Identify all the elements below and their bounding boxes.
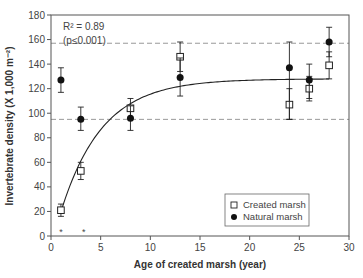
reference-lines (51, 43, 349, 119)
fit-curve (61, 79, 329, 212)
chart-container: 020406080100120140160180 051015202530 **… (0, 0, 363, 278)
scatter-chart: 020406080100120140160180 051015202530 **… (0, 0, 363, 278)
x-tick-label: 15 (194, 242, 206, 253)
x-tick-label: 5 (98, 242, 104, 253)
y-tick-label: 80 (34, 132, 46, 143)
x-tick-label: 20 (244, 242, 256, 253)
data-point-circle (127, 115, 134, 122)
x-tick-label: 0 (48, 242, 54, 253)
data-point-circle (326, 39, 333, 46)
y-axis-ticks: 020406080100120140160180 (28, 10, 51, 242)
y-tick-label: 140 (28, 59, 45, 70)
y-tick-label: 160 (28, 34, 45, 45)
significance-asterisk: * (59, 227, 63, 237)
data-point-square (326, 62, 333, 69)
y-tick-label: 20 (34, 206, 46, 217)
data-point-circle (77, 116, 84, 123)
y-tick-label: 120 (28, 83, 45, 94)
legend-created-marsh-icon (231, 202, 237, 208)
y-tick-label: 60 (34, 157, 46, 168)
fit-curve-line (61, 79, 329, 212)
data-point-square (78, 168, 85, 175)
x-tick-label: 25 (294, 242, 306, 253)
x-tick-label: 10 (145, 242, 157, 253)
y-tick-label: 100 (28, 108, 45, 119)
legend-created-marsh-label: Created marsh (243, 199, 306, 210)
significance-asterisk: * (82, 227, 86, 237)
data-point-square (58, 207, 65, 214)
legend-natural-marsh-icon (231, 214, 237, 220)
y-tick-label: 0 (39, 231, 45, 242)
x-axis-label: Age of created marsh (year) (134, 259, 266, 270)
annotation-r-squared: R² = 0.89 (63, 21, 105, 32)
legend: Created marsh Natural marsh (225, 194, 309, 226)
data-point-circle (286, 64, 293, 71)
y-tick-label: 40 (34, 181, 46, 192)
annotation-p-value: (p≤0.001) (63, 35, 106, 46)
legend-natural-marsh-label: Natural marsh (243, 211, 303, 222)
y-axis-label: Invertebrate density (X 1,000 m⁻²) (4, 47, 15, 206)
x-axis-ticks: 051015202530 (48, 236, 355, 253)
x-tick-label: 30 (343, 242, 355, 253)
data-point-circle (57, 77, 64, 84)
data-point-circle (177, 74, 184, 81)
data-point-circle (306, 77, 313, 84)
data-series (57, 27, 332, 216)
y-tick-label: 180 (28, 10, 45, 21)
